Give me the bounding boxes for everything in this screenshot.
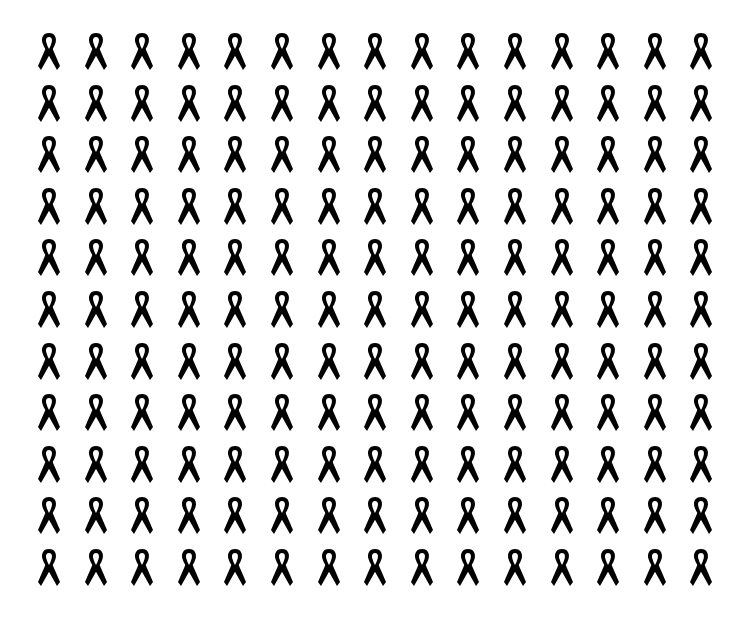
awareness-ribbon-icon (176, 494, 202, 538)
awareness-ribbon-icon (502, 185, 528, 229)
awareness-ribbon-icon (129, 133, 155, 177)
awareness-ribbon-icon (549, 288, 575, 332)
awareness-ribbon-icon (642, 288, 668, 332)
awareness-ribbon-icon (222, 82, 248, 126)
awareness-ribbon-icon (362, 340, 388, 384)
awareness-ribbon-icon (36, 443, 62, 487)
awareness-ribbon-icon (409, 443, 435, 487)
awareness-ribbon-icon (269, 494, 295, 538)
awareness-ribbon-icon (409, 546, 435, 590)
awareness-ribbon-icon (176, 82, 202, 126)
awareness-ribbon-icon (455, 133, 481, 177)
awareness-ribbon-icon (595, 82, 621, 126)
awareness-ribbon-icon (688, 340, 714, 384)
awareness-ribbon-icon (36, 82, 62, 126)
awareness-ribbon-icon (129, 30, 155, 74)
awareness-ribbon-icon (642, 133, 668, 177)
awareness-ribbon-icon (269, 288, 295, 332)
awareness-ribbon-icon (83, 546, 109, 590)
awareness-ribbon-icon (455, 82, 481, 126)
awareness-ribbon-icon (316, 30, 342, 74)
awareness-ribbon-icon (409, 133, 435, 177)
awareness-ribbon-icon (269, 185, 295, 229)
awareness-ribbon-icon (455, 30, 481, 74)
awareness-ribbon-icon (222, 236, 248, 280)
awareness-ribbon-icon (595, 133, 621, 177)
awareness-ribbon-icon (595, 494, 621, 538)
awareness-ribbon-icon (595, 391, 621, 435)
awareness-ribbon-icon (316, 185, 342, 229)
awareness-ribbon-icon (176, 443, 202, 487)
awareness-ribbon-icon (642, 340, 668, 384)
awareness-ribbon-icon (595, 546, 621, 590)
awareness-ribbon-icon (269, 340, 295, 384)
awareness-ribbon-icon (83, 236, 109, 280)
awareness-ribbon-icon (549, 340, 575, 384)
awareness-ribbon-icon (688, 236, 714, 280)
awareness-ribbon-icon (269, 443, 295, 487)
awareness-ribbon-icon (316, 82, 342, 126)
awareness-ribbon-icon (549, 133, 575, 177)
awareness-ribbon-icon (36, 30, 62, 74)
awareness-ribbon-icon (502, 443, 528, 487)
awareness-ribbon-icon (129, 340, 155, 384)
awareness-ribbon-icon (549, 82, 575, 126)
awareness-ribbon-icon (688, 185, 714, 229)
awareness-ribbon-icon (129, 494, 155, 538)
awareness-ribbon-icon (83, 288, 109, 332)
awareness-ribbon-icon (455, 185, 481, 229)
awareness-ribbon-icon (642, 494, 668, 538)
awareness-ribbon-icon (222, 443, 248, 487)
awareness-ribbon-icon (316, 391, 342, 435)
awareness-ribbon-icon (176, 236, 202, 280)
awareness-ribbon-icon (129, 443, 155, 487)
awareness-ribbon-icon (36, 340, 62, 384)
awareness-ribbon-icon (129, 288, 155, 332)
awareness-ribbon-icon (362, 30, 388, 74)
awareness-ribbon-icon (36, 288, 62, 332)
awareness-ribbon-icon (455, 494, 481, 538)
awareness-ribbon-icon (83, 443, 109, 487)
awareness-ribbon-icon (36, 133, 62, 177)
awareness-ribbon-icon (129, 82, 155, 126)
awareness-ribbon-icon (83, 133, 109, 177)
awareness-ribbon-icon (176, 30, 202, 74)
awareness-ribbon-icon (222, 185, 248, 229)
awareness-ribbon-icon (316, 443, 342, 487)
awareness-ribbon-icon (129, 391, 155, 435)
awareness-ribbon-icon (316, 494, 342, 538)
awareness-ribbon-icon (502, 30, 528, 74)
awareness-ribbon-icon (642, 236, 668, 280)
awareness-ribbon-icon (549, 391, 575, 435)
awareness-ribbon-icon (269, 391, 295, 435)
awareness-ribbon-icon (595, 30, 621, 74)
awareness-ribbon-icon (222, 30, 248, 74)
awareness-ribbon-icon (316, 288, 342, 332)
awareness-ribbon-icon (362, 288, 388, 332)
awareness-ribbon-icon (362, 185, 388, 229)
awareness-ribbon-icon (36, 185, 62, 229)
awareness-ribbon-icon (316, 546, 342, 590)
awareness-ribbon-icon (549, 30, 575, 74)
awareness-ribbon-icon (176, 185, 202, 229)
awareness-ribbon-icon (502, 340, 528, 384)
awareness-ribbon-icon (176, 340, 202, 384)
awareness-ribbon-icon (269, 546, 295, 590)
awareness-ribbon-icon (595, 185, 621, 229)
awareness-ribbon-icon (83, 82, 109, 126)
awareness-ribbon-icon (549, 185, 575, 229)
awareness-ribbon-icon (83, 494, 109, 538)
awareness-ribbon-icon (316, 340, 342, 384)
awareness-ribbon-icon (688, 82, 714, 126)
awareness-ribbon-icon (502, 494, 528, 538)
awareness-ribbon-icon (409, 236, 435, 280)
awareness-ribbon-icon (595, 443, 621, 487)
awareness-ribbon-icon (409, 185, 435, 229)
awareness-ribbon-icon (502, 288, 528, 332)
awareness-ribbon-icon (36, 391, 62, 435)
awareness-ribbon-icon (502, 546, 528, 590)
awareness-ribbon-icon (222, 133, 248, 177)
awareness-ribbon-icon (36, 546, 62, 590)
awareness-ribbon-icon (83, 391, 109, 435)
awareness-ribbon-icon (688, 443, 714, 487)
